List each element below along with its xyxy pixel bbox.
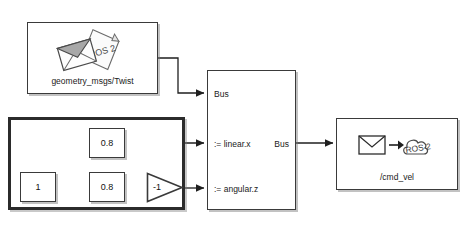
cmd-vel-publisher-block[interactable]: ROS 2 /cmd_vel	[336, 118, 458, 190]
bus-assignment-block[interactable]: Bus := linear.x := angular.z Bus	[207, 70, 296, 210]
ros2-message-envelope-icon: ROS 2	[28, 29, 157, 77]
constant-value: 1	[35, 182, 40, 192]
gain-negate-block[interactable]: -1	[146, 172, 184, 203]
bus-input-port-1: := linear.x	[214, 140, 251, 149]
message-block-label: geometry_msgs/Twist	[28, 76, 157, 86]
geometry-msgs-twist-block[interactable]: ROS 2 geometry_msgs/Twist	[27, 22, 158, 94]
bus-input-port-0: Bus	[214, 90, 229, 99]
gain-negate-value: -1	[153, 182, 161, 192]
gain-angular-block[interactable]: 0.8	[89, 172, 125, 202]
gain-angular-value: 0.8	[101, 182, 114, 192]
bus-input-port-2: := angular.z	[214, 185, 258, 194]
constant-block[interactable]: 1	[20, 172, 56, 202]
gain-linear-value: 0.8	[101, 138, 114, 148]
wire-msg-to-bus	[158, 58, 204, 93]
publisher-topic-label: /cmd_vel	[337, 172, 457, 182]
ros2-publish-cloud-icon: ROS 2	[337, 129, 457, 161]
bus-output-port: Bus	[274, 140, 289, 149]
gain-linear-block[interactable]: 0.8	[89, 128, 125, 158]
